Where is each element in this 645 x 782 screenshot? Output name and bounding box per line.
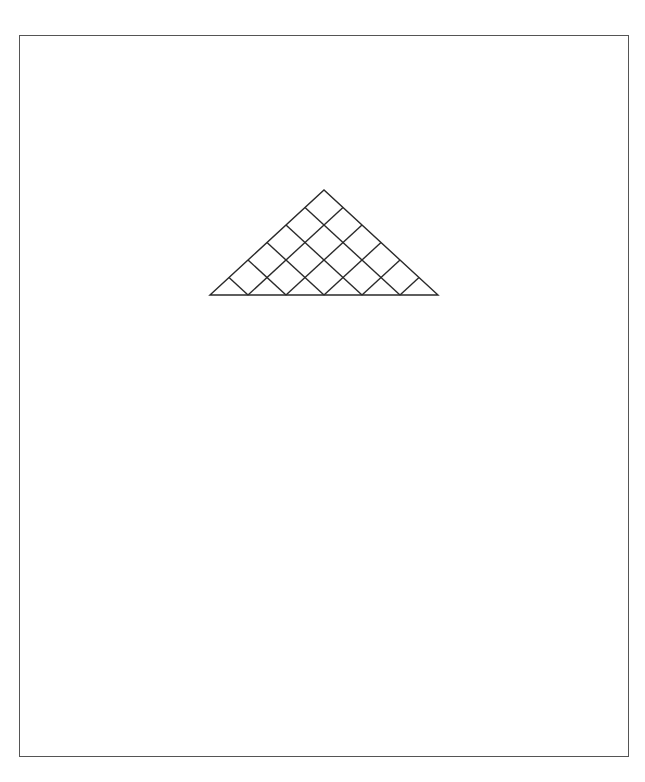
correlation-mark-group — [236, 291, 255, 310]
correlation-matrix-roof — [210, 190, 438, 295]
house-of-quality-diagram — [0, 0, 645, 782]
